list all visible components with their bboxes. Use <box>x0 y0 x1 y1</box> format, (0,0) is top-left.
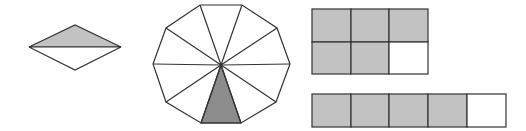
grid-cell-shaded <box>312 9 351 42</box>
strip-cell-shaded <box>428 94 467 127</box>
grid-cell-shaded <box>351 42 389 74</box>
decagon-spoke <box>200 5 221 65</box>
grid-cell-shaded <box>389 9 428 42</box>
strip-1x5-figure <box>312 94 506 127</box>
fractions-diagram <box>0 0 526 131</box>
decagon-figure <box>153 5 290 123</box>
grid-2x3-figure <box>312 9 428 74</box>
decagon-spoke <box>221 64 290 65</box>
decagon-spoke <box>221 28 277 65</box>
rhombus-top-half-shaded <box>29 25 121 47</box>
grid-cell-shaded <box>312 42 351 74</box>
strip-cell-shaded <box>312 94 351 127</box>
decagon-spoke <box>221 5 242 65</box>
strip-cell-unshaded <box>467 94 506 127</box>
strip-cell-shaded <box>389 94 428 127</box>
strip-cell-shaded <box>351 94 389 127</box>
decagon-spoke <box>153 64 221 65</box>
grid-cell-unshaded <box>389 42 428 74</box>
decagon-spoke <box>166 28 221 65</box>
grid-cell-shaded <box>351 9 389 42</box>
rhombus-bottom-half <box>29 47 121 70</box>
rhombus-figure <box>29 25 121 70</box>
